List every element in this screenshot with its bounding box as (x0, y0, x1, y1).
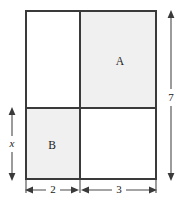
arrowhead-right-2 (71, 187, 79, 194)
geometry-figure: A B 7 x 2 (0, 0, 185, 204)
dimension-label-2: 2 (50, 183, 56, 195)
dimension-label-x: x (9, 137, 15, 149)
dimension-width-3: 3 (81, 182, 157, 198)
dimension-height-total: 7 (164, 10, 178, 181)
arrowhead-down-right (168, 173, 175, 181)
arrowhead-left-3 (81, 187, 89, 194)
dimension-height-x: x (5, 107, 19, 181)
arrowhead-up-left (9, 107, 16, 115)
region-label-A: A (116, 55, 125, 67)
region-top-left (26, 11, 80, 108)
region-label-B: B (48, 139, 56, 151)
region-bottom-right (80, 108, 156, 179)
arrowhead-down-left (9, 173, 16, 181)
dimension-width-2: 2 (25, 182, 79, 198)
arrowhead-up-right (168, 10, 175, 18)
dimension-label-7: 7 (168, 91, 174, 103)
dimension-label-3: 3 (116, 183, 122, 195)
figure-canvas: A B 7 x 2 (0, 0, 185, 204)
